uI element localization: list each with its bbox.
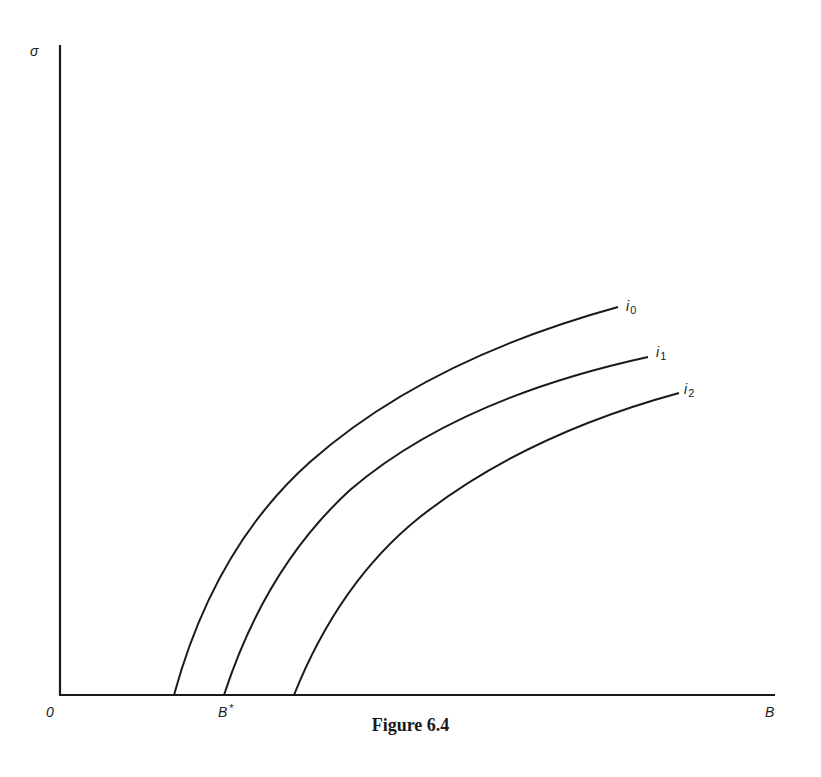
- curve-label-i2: i2: [684, 381, 694, 399]
- figure-chart: σ 0 B B* i0 i1 i2: [0, 0, 821, 777]
- curve-i0: [174, 307, 618, 695]
- curve-i1: [224, 357, 648, 695]
- curve-label-i1: i1: [656, 344, 666, 362]
- figure-caption: Figure 6.4: [0, 715, 821, 736]
- curve-i2: [294, 393, 679, 695]
- curve-label-i0: i0: [626, 298, 636, 316]
- y-axis-label: σ: [30, 43, 39, 59]
